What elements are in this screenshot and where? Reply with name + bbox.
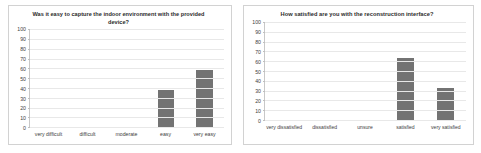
gridline [265, 120, 466, 121]
gridline [30, 78, 224, 79]
gridline [265, 100, 466, 101]
x-category-label: very easy [185, 130, 224, 142]
gridline [265, 51, 466, 52]
y-tick-label: 20 [20, 105, 26, 111]
gridline [265, 81, 466, 82]
y-tick-mark [263, 42, 265, 43]
gridline [30, 29, 224, 30]
y-tick-mark [28, 108, 30, 109]
y-tick-mark [28, 49, 30, 50]
y-tick-mark [28, 29, 30, 30]
chart-title: Was it easy to capture the indoor enviro… [13, 10, 224, 26]
x-category-label: very difficult [29, 130, 68, 142]
y-tick-mark [28, 127, 30, 128]
survey-charts-figure: Was it easy to capture the indoor enviro… [0, 0, 481, 153]
gridline [265, 91, 466, 92]
y-tick-label: 30 [255, 88, 261, 94]
bar [437, 88, 454, 120]
y-tick-label: 30 [20, 96, 26, 102]
x-category-label: moderate [107, 130, 146, 142]
y-tick-mark [263, 32, 265, 33]
y-tick-label: 50 [255, 69, 261, 75]
chart-title: How satisfied are you with the reconstru… [248, 10, 466, 19]
y-tick-mark [28, 117, 30, 118]
y-tick-mark [28, 78, 30, 79]
gridline [30, 108, 224, 109]
x-category-label: difficult [68, 130, 107, 142]
y-tick-label: 20 [255, 98, 261, 104]
y-tick-label: 10 [20, 115, 26, 121]
chart-inner: Was it easy to capture the indoor enviro… [9, 6, 231, 144]
y-tick-label: 100 [252, 19, 261, 25]
gridline [30, 117, 224, 118]
y-tick-mark [263, 91, 265, 92]
x-category-label: very dissatisfied [264, 123, 304, 135]
y-tick-mark [263, 100, 265, 101]
x-category-label: dissatisfied [304, 123, 344, 135]
gridline [30, 98, 224, 99]
plot-wrap: 1009080706050403020100 [13, 29, 224, 128]
gridline [30, 68, 224, 69]
gridline [30, 39, 224, 40]
plot-area [29, 29, 224, 128]
y-tick-mark [263, 110, 265, 111]
y-tick-label: 90 [255, 29, 261, 35]
y-tick-mark [28, 88, 30, 89]
gridline [265, 32, 466, 33]
chart-inner: How satisfied are you with the reconstru… [244, 6, 473, 144]
y-axis-tick-labels: 1009080706050403020100 [13, 29, 28, 128]
y-tick-mark [28, 59, 30, 60]
x-category-label: satisfied [385, 123, 425, 135]
gridline [30, 49, 224, 50]
plot-wrap: 1009080706050403020100 [248, 22, 466, 121]
y-tick-label: 90 [20, 36, 26, 42]
gridline [265, 61, 466, 62]
x-category-label: unsure [345, 123, 385, 135]
y-tick-mark [263, 81, 265, 82]
y-tick-label: 80 [255, 39, 261, 45]
gridline [265, 71, 466, 72]
gridline [30, 127, 224, 128]
y-tick-label: 80 [20, 46, 26, 52]
chart-panel-capture-ease: Was it easy to capture the indoor enviro… [8, 5, 232, 145]
y-tick-mark [263, 22, 265, 23]
x-category-label: easy [146, 130, 185, 142]
y-tick-mark [263, 51, 265, 52]
gridline [265, 42, 466, 43]
y-tick-label: 0 [23, 125, 26, 131]
gridline [265, 110, 466, 111]
plot-area [264, 22, 466, 121]
y-tick-mark [263, 120, 265, 121]
gridline [265, 22, 466, 23]
y-tick-label: 100 [17, 26, 26, 32]
y-axis-tick-labels: 1009080706050403020100 [248, 22, 263, 121]
y-tick-label: 70 [255, 49, 261, 55]
y-tick-label: 50 [20, 76, 26, 82]
gridline [30, 59, 224, 60]
gridline [30, 88, 224, 89]
chart-panel-interface-satisfaction: How satisfied are you with the reconstru… [243, 5, 474, 145]
x-category-label: very satisfied [426, 123, 466, 135]
y-tick-label: 60 [255, 59, 261, 65]
x-axis-category-labels: very difficultdifficultmoderateeasyvery … [29, 130, 224, 142]
y-tick-label: 40 [20, 86, 26, 92]
y-tick-mark [263, 71, 265, 72]
y-tick-label: 40 [255, 78, 261, 84]
y-tick-label: 60 [20, 66, 26, 72]
y-tick-label: 10 [255, 108, 261, 114]
y-tick-mark [28, 68, 30, 69]
y-tick-mark [28, 39, 30, 40]
y-tick-mark [263, 61, 265, 62]
x-axis-category-labels: very dissatisfieddissatisfiedunsuresatis… [264, 123, 466, 135]
y-tick-mark [28, 98, 30, 99]
y-tick-label: 70 [20, 56, 26, 62]
y-tick-label: 0 [258, 118, 261, 124]
